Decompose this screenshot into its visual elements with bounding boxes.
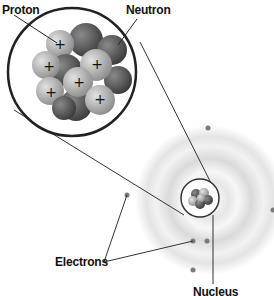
svg-text:+: + <box>91 56 103 72</box>
neutron-label: Neutron <box>126 3 171 17</box>
svg-text:+: + <box>54 36 66 52</box>
nucleus-label: Nucleus <box>193 285 238 296</box>
svg-text:+: + <box>43 58 55 74</box>
svg-text:+: + <box>73 74 85 90</box>
svg-text:+: + <box>45 84 57 100</box>
electrons-label: Electrons <box>55 255 108 269</box>
proton-label: Proton <box>2 3 39 17</box>
svg-text:+: + <box>94 91 106 107</box>
atom-diagram: + + + + + + <box>0 0 274 296</box>
